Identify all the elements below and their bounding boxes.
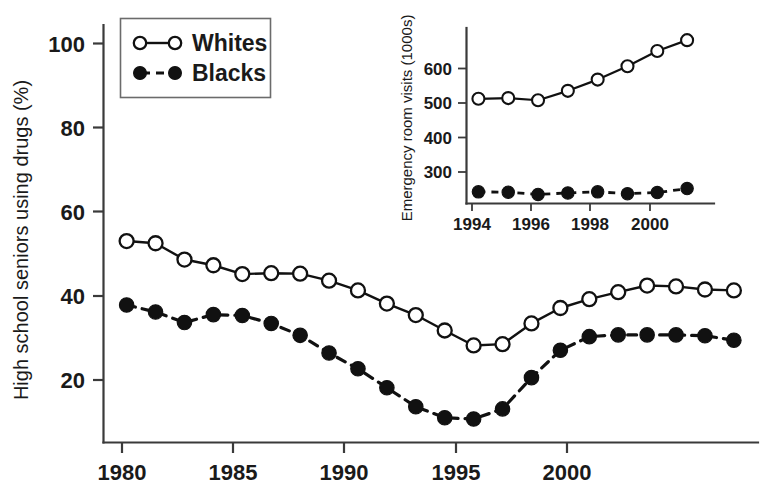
y-tick-label-40: 40	[61, 284, 85, 309]
data-point[interactable]	[502, 92, 514, 104]
data-point[interactable]	[351, 283, 365, 297]
inset-series-layer	[472, 34, 693, 200]
data-point[interactable]	[582, 329, 596, 343]
data-point[interactable]	[496, 337, 510, 351]
data-point[interactable]	[293, 267, 307, 281]
figure-container: 100 80 60 40 20 1980 1985 1990 1995 2000…	[0, 0, 762, 494]
data-point[interactable]	[621, 60, 633, 72]
data-point[interactable]	[177, 253, 191, 267]
data-point[interactable]	[651, 186, 663, 198]
data-point[interactable]	[611, 285, 625, 299]
data-point[interactable]	[322, 346, 336, 360]
legend-label-blacks: Blacks	[192, 60, 266, 86]
data-point[interactable]	[669, 279, 683, 293]
legend-marker-filled-circle	[134, 67, 147, 80]
data-point[interactable]	[591, 186, 603, 198]
data-point[interactable]	[524, 370, 538, 384]
data-point[interactable]	[582, 292, 596, 306]
chart-svg: 100 80 60 40 20 1980 1985 1990 1995 2000…	[0, 0, 762, 494]
x-tick-label-1980: 1980	[98, 460, 147, 485]
legend-marker-filled-circle-2	[169, 67, 182, 80]
data-point[interactable]	[206, 307, 220, 321]
data-point[interactable]	[502, 186, 514, 198]
data-point[interactable]	[120, 234, 134, 248]
data-point[interactable]	[235, 267, 249, 281]
legend-label-whites: Whites	[192, 30, 267, 56]
data-point[interactable]	[380, 381, 394, 395]
data-point[interactable]	[553, 301, 567, 315]
inset-y-axis-title: Emergency room visits (1000s)	[398, 15, 415, 222]
main-series-layer	[119, 234, 741, 426]
data-point[interactable]	[621, 187, 633, 199]
legend: Whites Blacks	[121, 19, 271, 98]
y-tick-label-100: 100	[48, 32, 85, 57]
data-point[interactable]	[532, 94, 544, 106]
inset-y-tick-label-600: 600	[424, 60, 452, 79]
data-point[interactable]	[206, 258, 220, 272]
data-point[interactable]	[264, 266, 278, 280]
y-tick-label-60: 60	[61, 200, 85, 225]
inset-x-tick-label-1998: 1998	[571, 215, 609, 234]
main-x-ticks	[122, 443, 567, 454]
data-point[interactable]	[177, 315, 191, 329]
inset-y-tick-label-300: 300	[424, 163, 452, 182]
data-point[interactable]	[466, 412, 480, 426]
data-point[interactable]	[472, 186, 484, 198]
data-point[interactable]	[727, 283, 741, 297]
data-point[interactable]	[640, 328, 654, 342]
data-point[interactable]	[562, 85, 574, 97]
inset-x-ticks	[472, 204, 650, 212]
x-tick-label-1985: 1985	[209, 460, 258, 485]
data-point[interactable]	[264, 316, 278, 330]
data-point[interactable]	[651, 45, 663, 57]
data-point[interactable]	[322, 274, 336, 288]
data-point[interactable]	[149, 236, 163, 250]
data-point[interactable]	[562, 187, 574, 199]
data-point[interactable]	[727, 333, 741, 347]
inset-x-tick-label-1996: 1996	[512, 215, 550, 234]
inset-x-tick-label-2000: 2000	[631, 215, 669, 234]
data-point[interactable]	[592, 74, 604, 86]
data-point[interactable]	[669, 328, 683, 342]
data-point[interactable]	[553, 343, 567, 357]
x-tick-label-2000: 2000	[543, 460, 592, 485]
data-point[interactable]	[681, 34, 693, 46]
data-point[interactable]	[438, 323, 452, 337]
main-chart: 100 80 60 40 20 1980 1985 1990 1995 2000…	[10, 19, 758, 486]
main-y-axis-title: High school seniors using drugs (%)	[10, 80, 32, 400]
inset-y-tick-label-400: 400	[424, 129, 452, 148]
inset-chart: 600 500 400 300 1994 1996 1998 2000 Emer…	[398, 15, 714, 234]
y-tick-label-20: 20	[61, 368, 85, 393]
inset-x-tick-label-1994: 1994	[453, 215, 491, 234]
data-point[interactable]	[524, 316, 538, 330]
data-point[interactable]	[351, 362, 365, 376]
data-point[interactable]	[640, 279, 654, 293]
inset-y-ticks	[458, 69, 467, 173]
data-point[interactable]	[409, 308, 423, 322]
x-tick-label-1990: 1990	[320, 460, 369, 485]
data-point[interactable]	[472, 93, 484, 105]
main-y-ticks	[93, 44, 104, 381]
data-point[interactable]	[380, 297, 394, 311]
data-point[interactable]	[698, 283, 712, 297]
data-point[interactable]	[467, 338, 481, 352]
data-point[interactable]	[438, 411, 452, 425]
data-point[interactable]	[148, 305, 162, 319]
data-point[interactable]	[235, 308, 249, 322]
y-tick-label-80: 80	[61, 116, 85, 141]
data-point[interactable]	[409, 400, 423, 414]
x-tick-label-1995: 1995	[432, 460, 481, 485]
legend-marker-open-circle	[134, 37, 146, 49]
data-point[interactable]	[119, 298, 133, 312]
data-point[interactable]	[495, 402, 509, 416]
data-point[interactable]	[293, 328, 307, 342]
data-point[interactable]	[681, 182, 693, 194]
data-point[interactable]	[698, 329, 712, 343]
data-point[interactable]	[611, 328, 625, 342]
inset-y-tick-label-500: 500	[424, 94, 452, 113]
data-point[interactable]	[532, 188, 544, 200]
legend-marker-open-circle-2	[169, 37, 181, 49]
